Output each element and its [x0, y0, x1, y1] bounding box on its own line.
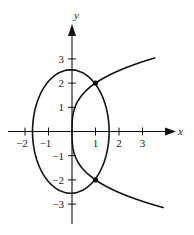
intersection-point	[93, 177, 98, 182]
y-tick-label: −2	[52, 174, 64, 186]
x-axis-arrow-icon	[165, 128, 176, 136]
x-tick-label: 3	[140, 137, 146, 149]
x-tick-label: −2	[16, 137, 28, 149]
x-ticks: −2−1123	[16, 128, 146, 149]
y-tick-label: 2	[59, 77, 65, 89]
x-axis-label: x	[177, 125, 183, 137]
x-tick-label: −1	[40, 137, 52, 149]
y-tick-label: −1	[52, 150, 64, 162]
cusp-curve	[72, 58, 164, 208]
y-tick-label: 1	[59, 101, 65, 113]
y-tick-label: −3	[52, 198, 64, 210]
y-tick-label: 3	[59, 53, 65, 65]
y-axis-arrow-icon	[68, 24, 76, 36]
intersection-point	[93, 81, 98, 86]
x-tick-label: 2	[116, 137, 122, 149]
figure-canvas: x y −2−1123 321−1−2−3	[0, 0, 194, 235]
x-tick-label: 1	[93, 137, 99, 149]
y-axis-label: y	[73, 9, 79, 21]
curves	[33, 58, 164, 208]
